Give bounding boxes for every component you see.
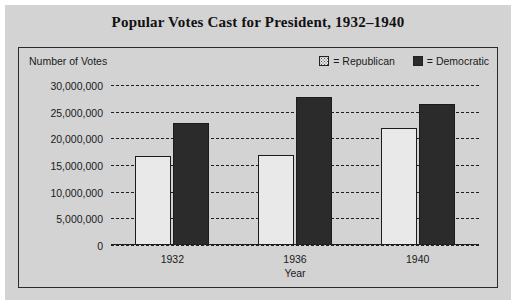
chart-panel: Number of Votes = Republican = Democrati…: [18, 47, 498, 288]
bar-democratic-1936: [296, 97, 332, 245]
x-axis-title: Year: [111, 267, 479, 279]
gridline: 0: [111, 245, 479, 246]
x-axis-line: [111, 244, 479, 245]
legend-item-democratic: = Democratic: [413, 55, 489, 67]
y-axis-tick-label: 15,000,000: [50, 160, 103, 172]
bar-democratic-1940: [419, 104, 455, 245]
chart-legend: = Republican = Democratic: [319, 55, 489, 67]
bar-republican-1936: [258, 155, 294, 245]
bar-republican-1940: [381, 128, 417, 245]
chart-title: Popular Votes Cast for President, 1932–1…: [0, 14, 516, 31]
y-axis-tick-label: 30,000,000: [50, 80, 103, 92]
y-axis-tick-label: 25,000,000: [50, 107, 103, 119]
bar-republican-1932: [135, 156, 171, 245]
x-axis-tick-label: 1940: [356, 253, 479, 265]
bar-democratic-1932: [173, 123, 209, 245]
chart-figure: Popular Votes Cast for President, 1932–1…: [0, 0, 516, 304]
y-axis-tick-label: 20,000,000: [50, 133, 103, 145]
x-axis-tick-label: 1936: [234, 253, 357, 265]
legend-label-democratic: = Democratic: [427, 55, 489, 67]
democratic-swatch-icon: [413, 56, 423, 66]
page-margin-top: [0, 0, 516, 5]
page-margin-right: [511, 0, 516, 304]
y-axis-tick-label: 10,000,000: [50, 187, 103, 199]
page-margin-bottom: [0, 300, 516, 304]
y-axis-tick-label: 0: [97, 240, 103, 252]
y-axis-tick-label: 5,000,000: [56, 213, 103, 225]
plot-area: 30,000,00025,000,00020,000,00015,000,000…: [111, 85, 479, 245]
x-axis-tick-label: 1932: [111, 253, 234, 265]
bar-group: 1940: [356, 85, 479, 245]
bar-group: 1932: [111, 85, 234, 245]
legend-item-republican: = Republican: [319, 55, 395, 67]
page-margin-left: [0, 0, 5, 304]
bar-group: 1936: [234, 85, 357, 245]
legend-label-republican: = Republican: [333, 55, 395, 67]
y-axis-title: Number of Votes: [29, 55, 107, 67]
republican-swatch-icon: [319, 56, 329, 66]
